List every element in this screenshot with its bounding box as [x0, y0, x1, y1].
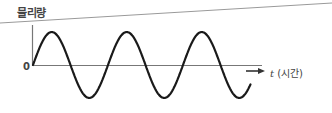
- x-axis-label: t (시간): [270, 65, 303, 80]
- arrow-right-icon: [246, 68, 265, 74]
- x-axis-variable: t: [270, 68, 274, 79]
- y-axis-label: 물리량: [17, 4, 46, 20]
- top-border-line: [0, 3, 332, 23]
- wave-diagram: [0, 0, 332, 113]
- x-axis-unit: (시간): [277, 68, 303, 79]
- origin-label: 0: [23, 61, 30, 72]
